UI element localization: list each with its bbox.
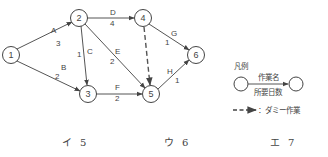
answer-i[interactable]: イ5 [62, 134, 94, 149]
edge-G-name: G [171, 29, 177, 38]
svg-text:1: 1 [8, 50, 13, 60]
svg-text:3: 3 [85, 89, 90, 99]
node-2: 2 [71, 10, 88, 27]
legend-end-node [289, 77, 303, 91]
edge-E [85, 24, 145, 88]
answer-e-key: エ [270, 137, 280, 148]
edge-B [17, 61, 80, 91]
edge-C-days: 1 [77, 50, 82, 59]
svg-text:6: 6 [193, 50, 198, 60]
svg-text:5: 5 [148, 89, 153, 99]
answer-u-value: 6 [182, 137, 188, 148]
answer-i-value: 5 [80, 137, 86, 148]
answer-e-value: 7 [288, 137, 294, 148]
edge-A-days: 3 [56, 39, 61, 48]
edge-F-days: 2 [115, 94, 120, 103]
legend-task-name: 作業名 [258, 72, 279, 82]
svg-text:2: 2 [76, 13, 81, 23]
node-1: 1 [3, 47, 20, 64]
edge-A-name: A [51, 26, 57, 35]
edge-E-name: E [115, 47, 120, 56]
edge-B-days: 2 [55, 72, 60, 81]
edge-B-name: B [61, 63, 66, 72]
answer-u-key: ウ [164, 137, 174, 148]
legend-title: 凡例 [234, 61, 248, 71]
edge-C-name: C [87, 47, 93, 56]
edge-A [17, 22, 72, 49]
node-4: 4 [135, 10, 152, 27]
edge-E-days: 2 [110, 57, 115, 66]
edge-F-name: F [115, 83, 120, 92]
legend-required-days: 所要日数 [254, 87, 283, 97]
edge-D-days: 4 [110, 19, 115, 28]
node-3: 3 [80, 86, 97, 103]
answer-e[interactable]: エ7 [270, 134, 302, 149]
answer-u[interactable]: ウ6 [164, 134, 196, 149]
answer-i-key: イ [62, 137, 72, 148]
legend-start-node [234, 77, 248, 91]
edge-H-days: 1 [175, 76, 180, 85]
edge-G-days: 1 [165, 38, 170, 47]
edge-dummy [144, 27, 150, 85]
svg-text:4: 4 [140, 13, 145, 23]
edge-H [158, 60, 189, 89]
edge-D-name: D [110, 8, 116, 17]
edge-H-name: H [167, 67, 173, 76]
legend: 凡例 作業名 所要日数 ：ダミー作業 [233, 61, 303, 115]
node-6: 6 [188, 47, 205, 64]
legend-dummy-label: ：ダミー作業 [258, 105, 301, 115]
node-5: 5 [143, 86, 160, 103]
